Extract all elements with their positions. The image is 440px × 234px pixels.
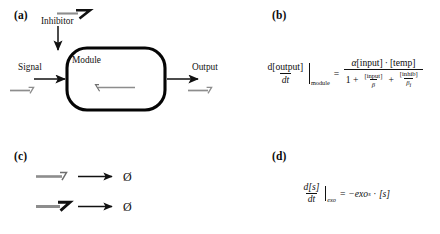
figure-canvas: (a)	[0, 0, 440, 234]
equation-d-rate: exo	[355, 188, 368, 199]
equation-d: d[s] dt exo = −exos · [s]	[300, 182, 390, 205]
equation-d-eval-bar: exo	[325, 186, 336, 201]
equation-d-lhs-fraction: d[s] dt	[302, 182, 322, 205]
reaction-2-reactant-icon	[36, 202, 70, 210]
equation-d-dot: ·	[371, 188, 379, 199]
equation-d-lhs-numerator: d[s]	[302, 182, 322, 193]
panel-label-d: (d)	[272, 150, 286, 162]
equation-d-eval-subscript: exo	[326, 196, 336, 203]
equation-d-relation: =	[337, 188, 348, 199]
reaction-1-reactant-icon	[36, 173, 67, 181]
equation-d-species: [s]	[379, 188, 390, 199]
reaction-1-product: Ø	[123, 170, 132, 185]
reaction-2-product: Ø	[123, 200, 132, 215]
equation-d-lhs-denominator: dt	[306, 193, 317, 205]
